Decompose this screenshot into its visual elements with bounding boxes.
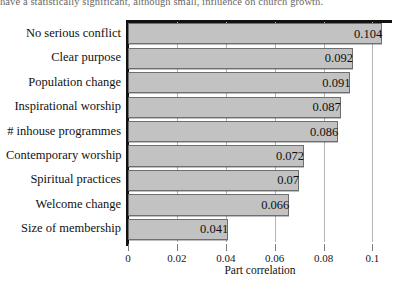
bar-row: 0.041 (128, 219, 392, 240)
x-axis-tick (372, 244, 373, 251)
x-axis-tick (128, 244, 129, 251)
category-label: Spiritual practices (6, 172, 126, 187)
category-label: No serious conflict (6, 26, 126, 41)
x-axis-tick (275, 244, 276, 251)
category-label: Clear purpose (6, 50, 126, 65)
x-axis-tick-label: 0.04 (216, 252, 235, 264)
bar-value-label: 0.072 (128, 149, 308, 164)
x-axis-tick (177, 244, 178, 251)
category-label: Population change (6, 75, 126, 90)
bar-value-label: 0.07 (128, 173, 303, 188)
plot-area: 0.1040.0920.0910.0870.0860.0720.070.0660… (128, 22, 392, 242)
category-label: # inhouse programmes (6, 124, 126, 139)
x-axis-tick (226, 244, 227, 251)
bar-value-label: 0.104 (128, 26, 386, 41)
x-axis-tick-label: 0.1 (366, 252, 380, 264)
bar-row: 0.072 (128, 145, 392, 166)
category-label: Welcome change (6, 197, 126, 212)
bar-value-label: 0.041 (128, 222, 232, 237)
category-label: Contemporary worship (6, 148, 126, 163)
bar-row: 0.092 (128, 48, 392, 69)
bar-series: 0.1040.0920.0910.0870.0860.0720.070.0660… (128, 22, 392, 242)
x-axis-tick (324, 244, 325, 251)
x-axis-tick-label: 0.08 (314, 252, 333, 264)
x-axis-tick-label: 0.02 (167, 252, 186, 264)
category-label: Size of membership (6, 221, 126, 236)
page-body-text: have a statistically significant, althou… (0, 0, 407, 8)
x-axis-ticks: 00.020.040.060.080.1 (128, 244, 392, 264)
bar-row: 0.086 (128, 121, 392, 142)
x-axis-tick-label: 0 (125, 252, 131, 264)
x-axis-title: Part correlation (128, 264, 392, 276)
bar-value-label: 0.092 (128, 51, 357, 66)
bar-value-label: 0.087 (128, 100, 345, 115)
bar-row: 0.087 (128, 97, 392, 118)
bar-row: 0.091 (128, 72, 392, 93)
bar-value-label: 0.091 (128, 75, 354, 90)
category-axis-labels: No serious conflictClear purposePopulati… (0, 22, 126, 242)
category-label: Inspirational worship (6, 99, 126, 114)
bar-row: 0.104 (128, 23, 392, 44)
bar-row: 0.07 (128, 170, 392, 191)
bar-value-label: 0.066 (128, 197, 293, 212)
bar-value-label: 0.086 (128, 124, 342, 139)
x-axis-tick-label: 0.06 (265, 252, 284, 264)
chart-page: have a statistically significant, althou… (0, 0, 407, 283)
bar-row: 0.066 (128, 194, 392, 215)
